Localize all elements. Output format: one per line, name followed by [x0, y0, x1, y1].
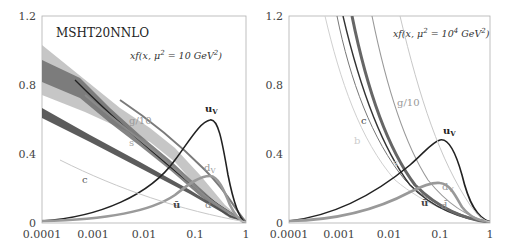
right-panel: 1.2 0.8 0.4 0 0.0001 0.001 0.01 0.1 1 xf… [266, 10, 494, 241]
label-c-right: c [361, 115, 367, 126]
right-ytick-0.4: 0.4 [266, 148, 284, 161]
right-subtitle: xf(x, μ2 = 104 GeV2) [393, 27, 490, 39]
pdf-figure: 1.2 0.8 0.4 0 0.0001 0.001 0.01 0.1 1 MS… [0, 0, 514, 252]
label-dbar-right: d̄ [441, 200, 448, 211]
label-g10-left: g/10 [129, 115, 152, 126]
right-ytick-0.8: 0.8 [266, 79, 284, 92]
label-g10-right: g/10 [397, 97, 420, 108]
right-xtick-0.001: 0.001 [323, 228, 355, 241]
label-ubar-left: ū [173, 199, 180, 210]
left-xtick-0.001: 0.001 [77, 228, 109, 241]
label-s-right: s [393, 157, 398, 168]
left-title: MSHT20NNLO [56, 26, 149, 40]
left-ytick-1.2: 1.2 [19, 10, 37, 23]
label-ubar-right: ū [421, 197, 428, 208]
right-plot-frame [289, 16, 490, 223]
left-xtick-0.0001: 0.0001 [23, 228, 62, 241]
right-xtick-0.1: 0.1 [431, 228, 449, 241]
left-ytick-0.8: 0.8 [19, 79, 37, 92]
left-panel: 1.2 0.8 0.4 0 0.0001 0.001 0.01 0.1 1 MS… [19, 10, 250, 241]
label-b-right: b [354, 135, 360, 146]
right-ytick-1.2: 1.2 [266, 10, 284, 23]
label-c-left: c [82, 174, 88, 185]
right-xtick-0.0001: 0.0001 [270, 228, 309, 241]
left-xtick-1: 1 [243, 228, 250, 241]
left-ytick-0.4: 0.4 [19, 148, 37, 161]
left-xtick-0.01: 0.01 [132, 228, 157, 241]
right-xtick-1: 1 [487, 228, 494, 241]
left-subtitle: xf(x, μ2 = 10 GeV2) [130, 49, 222, 61]
right-xtick-0.01: 0.01 [377, 228, 402, 241]
left-xtick-0.1: 0.1 [186, 228, 204, 241]
label-dbar-left: d̄ [205, 199, 212, 210]
label-s-left: s [129, 137, 134, 148]
